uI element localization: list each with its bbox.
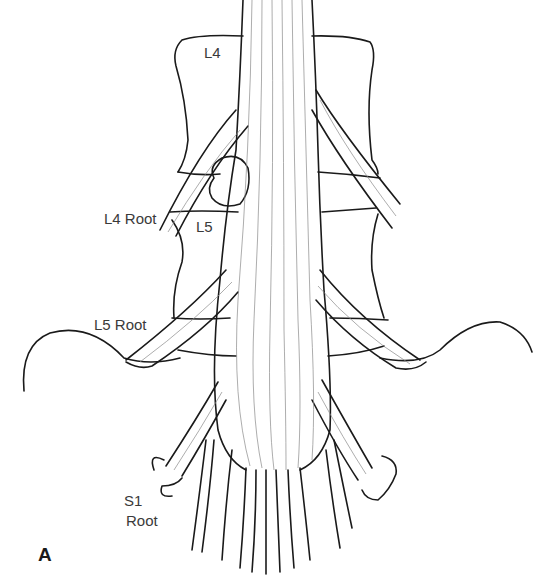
l4-vertebra-outline bbox=[170, 36, 380, 213]
label-l4-root: L4 Root bbox=[104, 210, 157, 227]
label-s1-root-line2: Root bbox=[126, 512, 158, 529]
panel-label: A bbox=[38, 544, 52, 566]
label-s1-root-line1: S1 bbox=[124, 492, 142, 509]
l5-vertebra-outline bbox=[172, 214, 388, 356]
cauda-equina-drawing bbox=[0, 0, 540, 583]
s1-root-right bbox=[312, 380, 396, 500]
label-l4-vertebra: L4 bbox=[204, 44, 221, 61]
label-l5-vertebra: L5 bbox=[196, 218, 213, 235]
label-l5-root: L5 Root bbox=[94, 316, 147, 333]
lower-nerve-roots bbox=[192, 440, 352, 574]
l4-root-right bbox=[312, 90, 400, 228]
anatomical-illustration: L4 L5 L4 Root L5 Root S1 Root A bbox=[0, 0, 540, 583]
